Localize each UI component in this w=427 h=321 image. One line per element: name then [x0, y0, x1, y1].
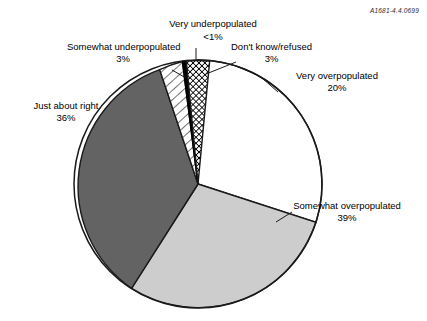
slice-label-just-about-right: Just about right 36%: [11, 100, 121, 123]
pie-chart-figure: A1681-4.4.0699: [0, 0, 427, 321]
slice-label-somewhat-underpopulated: Somewhat underpopulated 3%: [67, 41, 179, 64]
slice-label-somewhat-overpopulated: Somewhat overpopulated 39%: [292, 200, 402, 223]
chart-plot-area: Very underpopulated <1% Don't know/refus…: [0, 0, 427, 321]
slice-label-somewhat-underpopulated-line1: Somewhat: [67, 41, 112, 52]
slice-label-somewhat-overpopulated-line2: overpopulated: [341, 200, 401, 211]
slice-label-very-underpopulated-text: Very underpopulated: [148, 18, 278, 30]
slice-label-very-underpopulated: Very underpopulated <1%: [148, 18, 278, 42]
pie-svg: [0, 0, 427, 321]
slice-label-somewhat-overpopulated-line1: Somewhat: [293, 200, 338, 211]
slice-value-just-about-right: 36%: [11, 112, 121, 124]
slice-value-somewhat-overpopulated: 39%: [292, 212, 402, 224]
slice-value-somewhat-underpopulated: 3%: [67, 53, 179, 65]
slice-label-dont-know-refused-text: Don't know/refused: [231, 41, 312, 52]
slice-label-dont-know-refused: Don't know/refused 3%: [219, 41, 324, 64]
slice-label-very-overpopulated: Very overpopulated 20%: [281, 70, 393, 93]
slice-label-just-about-right-text: Just about right: [34, 100, 99, 111]
slice-value-dont-know-refused: 3%: [219, 53, 324, 65]
slice-label-very-overpopulated-text: Very overpopulated: [296, 70, 378, 81]
slice-value-very-overpopulated: 20%: [281, 82, 393, 94]
slice-label-somewhat-underpopulated-line2: underpopulated: [115, 41, 181, 52]
